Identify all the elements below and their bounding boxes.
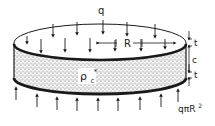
core-density-label: ρ c *: [78, 68, 98, 86]
reaction-label-base: qπR: [178, 104, 195, 114]
rho-subscript: c: [90, 77, 94, 85]
reaction-label-exponent: 2: [198, 102, 202, 109]
load-arrows-down: [27, 20, 165, 52]
radius-label: R: [124, 38, 131, 49]
face-thickness-bottom-label: t: [194, 70, 198, 80]
sandwich-disk-diagram: R q ρ c * t c t qπR: [0, 0, 215, 126]
reaction-label: qπR 2: [178, 102, 202, 114]
radius-dimension: [98, 39, 175, 47]
rho-symbol: ρ: [80, 70, 87, 83]
core-side-wall: [14, 43, 186, 94]
rho-superscript: *: [94, 68, 98, 76]
load-label: q: [98, 5, 104, 16]
core-thickness-label: c: [192, 55, 197, 65]
top-ellipse-rim: [14, 24, 186, 43]
face-thickness-top-label: t: [194, 38, 198, 48]
